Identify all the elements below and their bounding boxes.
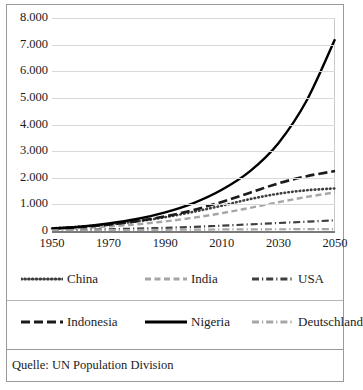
gridline — [52, 98, 335, 99]
legend-divider — [7, 300, 343, 301]
legend-item-deutschland[interactable]: Deutschland — [252, 305, 363, 339]
y-tick-label: 7.000 — [6, 38, 48, 50]
legend-item-nigeria[interactable]: Nigeria — [145, 305, 230, 339]
x-tick-label: 2050 — [313, 236, 357, 251]
legend-item-usa[interactable]: USA — [252, 262, 324, 296]
source-caption: Quelle: UN Population Division — [12, 353, 338, 377]
legend-label: Deutschland — [294, 314, 363, 330]
x-tick-label: 1990 — [143, 236, 187, 251]
gridline — [52, 178, 335, 179]
gridline — [52, 125, 335, 126]
series-line — [52, 192, 335, 229]
x-tick-label: 1950 — [30, 236, 74, 251]
legend-row: IndonesiaNigeriaDeutschland — [7, 305, 343, 339]
legend-label: Indonesia — [63, 314, 118, 330]
y-tick-label: 4.000 — [6, 118, 48, 130]
legend-label: China — [63, 271, 98, 287]
x-tick-label: 2030 — [256, 236, 300, 251]
legend-item-indonesia[interactable]: Indonesia — [21, 305, 118, 339]
legend-row: ChinaIndiaUSA — [7, 262, 343, 296]
source-divider — [7, 349, 343, 350]
legend-label: India — [187, 271, 218, 287]
y-tick-label: 0 — [6, 224, 48, 236]
legend-item-india[interactable]: India — [145, 262, 218, 296]
legend-label: USA — [294, 271, 324, 287]
x-axis-ticks: 195019701990201020302050 — [52, 236, 335, 254]
gridline — [52, 151, 335, 152]
legend-item-china[interactable]: China — [21, 262, 98, 296]
legend-swatch-icon — [145, 272, 187, 286]
series-line — [52, 188, 335, 228]
x-tick-label: 1970 — [87, 236, 131, 251]
legend-swatch-icon — [145, 315, 187, 329]
plot-area: 8.0007.0006.0005.0004.0003.0002.0001.000… — [6, 4, 344, 254]
gridline — [52, 71, 335, 72]
legend-label: Nigeria — [187, 314, 230, 330]
chart-legend: ChinaIndiaUSAIndonesiaNigeriaDeutschland — [7, 262, 343, 348]
legend-swatch-icon — [252, 272, 294, 286]
plot-canvas — [52, 18, 335, 231]
legend-swatch-icon — [21, 315, 63, 329]
gridline — [52, 204, 335, 205]
legend-swatch-icon — [21, 272, 63, 286]
x-axis-line — [52, 231, 335, 233]
y-axis-ticks: 8.0007.0006.0005.0004.0003.0002.0001.000… — [6, 18, 48, 231]
y-tick-label: 2.000 — [6, 171, 48, 183]
gridline — [52, 18, 335, 19]
gridline — [52, 45, 335, 46]
x-tick-label: 2010 — [200, 236, 244, 251]
y-tick-label: 1.000 — [6, 197, 48, 209]
y-tick-label: 5.000 — [6, 91, 48, 103]
y-tick-label: 3.000 — [6, 144, 48, 156]
y-tick-label: 6.000 — [6, 64, 48, 76]
legend-swatch-icon — [252, 315, 294, 329]
y-tick-label: 8.000 — [6, 11, 48, 23]
